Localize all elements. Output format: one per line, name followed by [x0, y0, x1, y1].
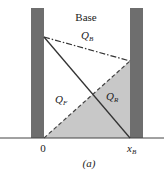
- qb-label: QB: [81, 29, 94, 43]
- caption-label: (a): [83, 157, 96, 170]
- xb-label: xB: [126, 142, 137, 156]
- origin-label: 0: [40, 142, 46, 154]
- diagram-canvas: Base QB QF QR 0 xB (a): [0, 0, 164, 174]
- right-column-bar: [130, 8, 143, 138]
- left-column-bar: [31, 8, 44, 138]
- base-label: Base: [75, 11, 97, 23]
- distillation-diagram: Base QB QF QR 0 xB (a): [0, 0, 164, 174]
- qf-label: QF: [55, 93, 68, 107]
